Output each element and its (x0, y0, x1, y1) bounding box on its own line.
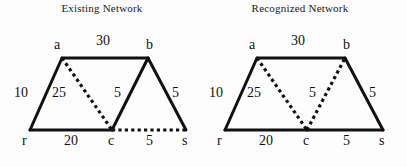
edge-weight-a-b: 30 (96, 34, 110, 48)
edge-b-s (148, 58, 186, 130)
edge-weight-a-c: 25 (247, 86, 261, 100)
panel-existing-network: Existing Network 30102555205abrcs (0, 0, 204, 167)
edge-weight-c-s: 5 (343, 134, 350, 148)
edge-weight-a-c: 25 (52, 86, 66, 100)
node-label-c: c (108, 134, 114, 148)
edge-weight-r-a: 10 (14, 86, 28, 100)
existing-network-graph (0, 0, 204, 167)
node-label-r: r (22, 134, 27, 148)
node-label-b: b (343, 38, 350, 52)
edge-b-s (345, 58, 383, 130)
node-label-a: a (249, 38, 255, 52)
node-label-b: b (146, 38, 153, 52)
edge-weight-r-a: 10 (209, 86, 223, 100)
edge-weight-a-b: 30 (291, 34, 305, 48)
edge-a-c (62, 58, 112, 130)
edge-weight-c-b: 5 (309, 86, 316, 100)
node-label-s: s (379, 134, 384, 148)
edge-weight-b-s: 5 (369, 86, 376, 100)
edge-weight-b-s: 5 (172, 86, 179, 100)
node-label-a: a (54, 38, 60, 52)
node-label-s: s (182, 134, 187, 148)
edge-a-c (257, 58, 307, 130)
edge-weight-r-c: 20 (259, 134, 273, 148)
edge-weight-c-b: 5 (114, 86, 121, 100)
recognized-network-graph (195, 0, 399, 167)
edge-weight-r-c: 20 (64, 134, 78, 148)
node-label-c: c (303, 134, 309, 148)
node-label-r: r (217, 134, 222, 148)
panel-recognized-network: Recognized Network 30102555205abrcs (195, 0, 399, 167)
edge-weight-c-s: 5 (146, 134, 153, 148)
network-comparison-figure: Existing Network 30102555205abrcs Recogn… (0, 0, 407, 167)
